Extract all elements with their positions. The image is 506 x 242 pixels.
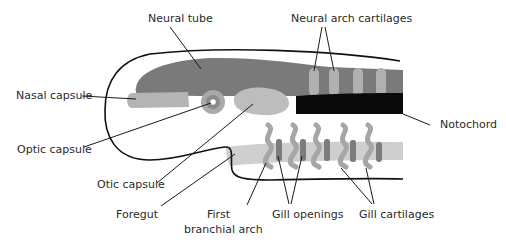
leader-notochord xyxy=(403,114,430,125)
gill-opening xyxy=(324,139,330,161)
embryo-head-diagram: Neural tube Neural arch cartilages Nasal… xyxy=(0,0,506,242)
label-gill-cartilages: Gill cartilages xyxy=(359,208,434,221)
leader-first-branchial-arch xyxy=(247,163,266,205)
gill-opening xyxy=(350,140,356,162)
neural-arch-cartilage xyxy=(309,68,319,96)
gill-opening xyxy=(276,139,282,161)
label-neural-tube: Neural tube xyxy=(148,12,213,25)
leader-neural-arch-2 xyxy=(325,27,334,71)
label-neural-arch-cartilages: Neural arch cartilages xyxy=(291,12,413,25)
leader-optic-capsule xyxy=(84,103,211,147)
optic-capsule xyxy=(201,90,225,114)
label-gill-openings: Gill openings xyxy=(272,208,344,221)
gill-opening xyxy=(300,139,306,161)
leader-foregut xyxy=(161,154,235,206)
nasal-capsule xyxy=(127,92,189,108)
label-otic-capsule: Otic capsule xyxy=(97,178,165,191)
label-notochord: Notochord xyxy=(440,118,497,131)
leader-neural-arch-1 xyxy=(314,27,322,71)
label-first-branchial-arch-line1: First xyxy=(207,208,231,221)
label-nasal-capsule: Nasal capsule xyxy=(16,89,93,102)
label-foregut: Foregut xyxy=(116,208,159,221)
neural-arch-cartilage xyxy=(353,68,363,96)
gill-opening xyxy=(376,142,382,162)
notochord xyxy=(296,93,403,114)
label-first-branchial-arch-line2: branchial arch xyxy=(184,223,263,236)
neural-arch-cartilage xyxy=(376,68,386,96)
neural-arch-cartilage xyxy=(329,68,339,96)
label-optic-capsule: Optic capsule xyxy=(17,143,92,156)
leader-otic-capsule xyxy=(157,104,253,183)
